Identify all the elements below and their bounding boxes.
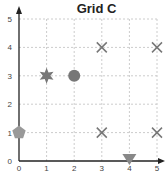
tick-labels: 012345012345	[8, 15, 160, 173]
x-tick-label: 2	[72, 164, 77, 173]
y-tick-label: 5	[8, 15, 13, 24]
x-tick-label: 0	[17, 164, 22, 173]
circle-marker-icon	[68, 70, 80, 82]
y-axis-arrow-icon	[16, 6, 22, 14]
x-tick-label: 4	[127, 164, 132, 173]
x-tick-label: 5	[155, 164, 160, 173]
pentagon-marker-icon	[12, 126, 25, 139]
y-tick-label: 0	[8, 157, 13, 166]
triangle-down-marker-icon	[122, 154, 136, 165]
y-tick-label: 3	[8, 72, 13, 81]
y-tick-label: 2	[8, 100, 13, 109]
axes	[16, 6, 165, 164]
x-tick-label: 1	[44, 164, 49, 173]
y-tick-label: 1	[8, 129, 13, 138]
scatter-chart: 012345012345	[0, 0, 165, 174]
y-tick-label: 4	[8, 43, 13, 52]
grid-lines	[19, 19, 157, 161]
x-tick-label: 3	[100, 164, 105, 173]
